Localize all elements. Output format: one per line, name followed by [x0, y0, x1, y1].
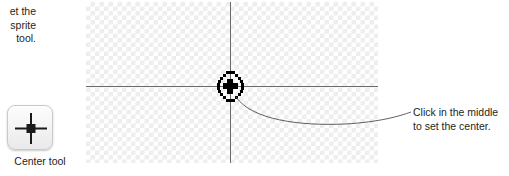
- center-tool-label: Center tool: [2, 155, 78, 168]
- instruction-text-left: et the sprite tool.: [0, 5, 36, 46]
- center-point-marker-icon: [212, 68, 249, 105]
- center-tool-button[interactable]: [7, 105, 53, 150]
- callout-text: Click in the middle to set the center.: [413, 106, 509, 133]
- sprite-canvas[interactable]: [86, 2, 378, 163]
- crosshair-center-icon: [8, 106, 52, 149]
